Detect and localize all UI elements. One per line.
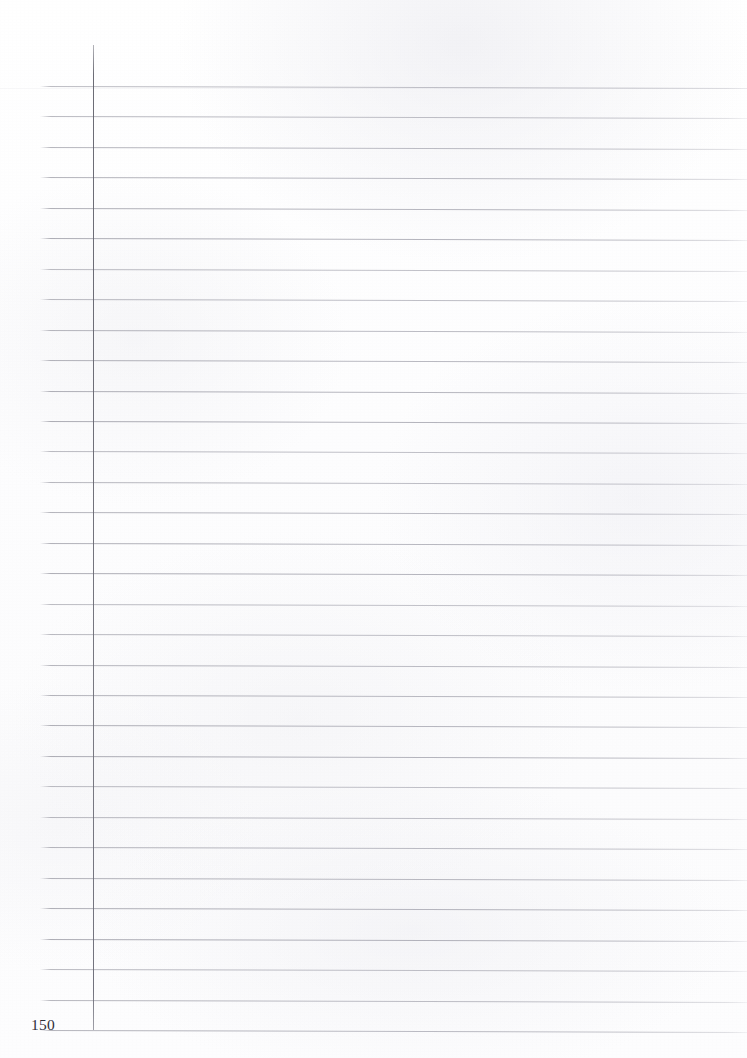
scanned-notebook-page: 150 <box>0 0 747 1058</box>
writing-area[interactable] <box>95 86 747 1030</box>
page-number: 150 <box>31 1017 55 1033</box>
ruled-line <box>40 1030 747 1033</box>
